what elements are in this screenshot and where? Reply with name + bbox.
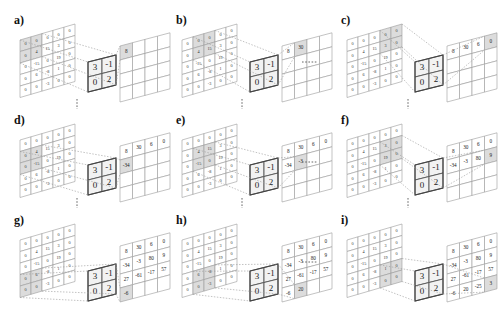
input-value: 0: [46, 258, 48, 263]
input-value: 0: [230, 163, 232, 168]
output-value: 57: [161, 266, 167, 272]
input-value: -3: [208, 81, 212, 86]
output-value: 3: [489, 280, 492, 286]
kernel-value: 0: [93, 286, 98, 296]
output-value: -3: [464, 258, 469, 264]
input-value: 0: [197, 38, 199, 43]
kernel-value: 2: [269, 283, 274, 293]
input-matrix: 000000415300-15019006-81000-300: [182, 24, 237, 98]
input-value: 15: [207, 46, 211, 51]
input-value: 6: [362, 72, 364, 77]
output-cell: [282, 185, 295, 202]
output-value: 6: [150, 241, 153, 247]
panel-label: i): [341, 213, 348, 227]
panel-label: e): [176, 113, 185, 127]
input-value: -8: [373, 269, 377, 274]
input-value: 0: [24, 64, 26, 69]
input-value: 0: [373, 58, 375, 63]
output-value: 6: [312, 141, 315, 147]
input-value: -15: [196, 261, 202, 266]
output-cell: [133, 281, 146, 298]
kernel-value: 3: [93, 271, 98, 281]
input-value: 0: [68, 40, 70, 45]
output-value: 8: [287, 48, 290, 54]
projection-line: [116, 46, 120, 55]
input-value: 0: [362, 284, 364, 289]
input-value: 0: [68, 263, 70, 268]
output-value: 8: [287, 148, 290, 154]
input-value: 0: [384, 232, 386, 237]
input-value: 19: [383, 55, 387, 60]
input-value: 0: [24, 141, 26, 146]
output-value: 27: [451, 276, 457, 282]
input-value: 0: [186, 287, 188, 292]
input-value: 0: [186, 153, 188, 158]
input-value: 6: [35, 72, 37, 77]
input-value: 15: [372, 246, 376, 251]
projection-line: [20, 298, 88, 302]
output-value: -17: [475, 269, 482, 275]
input-value: 0: [46, 235, 48, 240]
kernel-value: 2: [107, 283, 112, 293]
output-cell: [295, 81, 308, 98]
input-value: 15: [45, 146, 49, 151]
output-value: 6: [150, 141, 153, 147]
input-value: 0: [68, 240, 70, 245]
input-value: 0: [197, 138, 199, 143]
output-value: 30: [463, 244, 469, 250]
input-value: 0: [230, 274, 232, 279]
output-value: -25: [475, 283, 482, 289]
kernel-value: -1: [432, 59, 440, 69]
output-cell: [295, 181, 308, 198]
input-value: -3: [46, 81, 50, 86]
input-value: 0: [219, 232, 221, 237]
input-value: 6: [35, 172, 37, 177]
kernel-value: 0: [255, 77, 260, 87]
output-value: 9: [324, 252, 327, 258]
output-value: 30: [298, 144, 304, 150]
input-value: 0: [351, 287, 353, 292]
convolution-diagram: a)000000415300-15019006-81000-3003-1028b…: [0, 0, 503, 319]
kernel-matrix: 3-102: [415, 158, 443, 195]
kernel-value: -1: [105, 59, 113, 69]
input-value: 0: [373, 235, 375, 240]
input-value: 15: [372, 46, 376, 51]
output-value: -3: [299, 158, 304, 164]
input-value: 0: [351, 253, 353, 258]
input-value: 19: [56, 155, 60, 160]
input-value: 0: [351, 76, 353, 81]
input-value: 0: [351, 53, 353, 58]
input-matrix: 000000415300-15019006-81000-300: [347, 224, 402, 298]
input-value: 3: [57, 43, 59, 48]
input-matrix: 000000415300-15019006-81000-300: [182, 124, 237, 198]
kernel-matrix: 3-102: [88, 158, 116, 195]
input-value: 0: [186, 76, 188, 81]
output-cell: [307, 178, 320, 195]
output-value: 9: [489, 152, 492, 158]
kernel-value: 2: [269, 177, 274, 187]
input-value: 0: [57, 278, 59, 283]
panel-f: f)000000415300-15019006-81000-3003-10283…: [341, 113, 497, 202]
output-value: 0: [489, 138, 492, 144]
input-value: -8: [373, 69, 377, 74]
input-value: 3: [57, 243, 59, 248]
output-matrix: 83060-34: [120, 133, 170, 202]
projection-line: [116, 294, 120, 302]
input-value: 0: [68, 74, 70, 79]
input-value: 0: [362, 84, 364, 89]
output-value: 30: [298, 244, 304, 250]
output-value: 6: [477, 241, 480, 247]
output-cell: [145, 78, 158, 95]
input-value: 6: [35, 272, 37, 277]
input-value: 1: [384, 66, 386, 71]
panel-label: d): [14, 113, 25, 127]
input-value: 0: [24, 276, 26, 281]
output-cell: [320, 275, 333, 292]
projection-line: [193, 294, 250, 301]
kernel-value: 3: [420, 271, 425, 281]
input-value: 0: [68, 251, 70, 256]
input-value: 0: [35, 238, 37, 243]
input-value: 3: [219, 243, 221, 248]
output-value: 0: [324, 238, 327, 244]
input-value: 0: [35, 84, 37, 89]
